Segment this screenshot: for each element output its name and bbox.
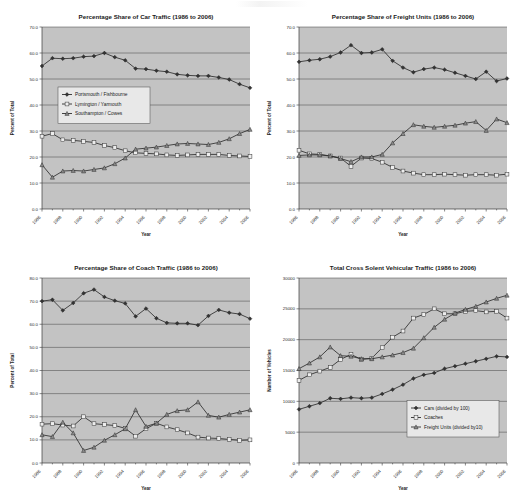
y-axis-title-coach-traffic: Percent of Total [10,353,15,387]
y-tick-label-2: 20.0 [29,155,38,160]
data-point-square-0 [40,422,44,426]
y-tick-label-2: 10000 [283,399,296,404]
data-point-square-20 [505,172,509,176]
y-tick-label-3: 30.0 [29,129,38,134]
y-tick-label-1: 10.0 [286,181,295,186]
chart-panel-freight-units[interactable]: Percentage Share of Freight Units (1986 … [257,0,514,251]
data-point-square-legend [65,102,69,106]
x-tick-label-7: 2000 [177,468,188,479]
y-tick-label-8: 80.0 [29,276,38,281]
data-point-square-1 [308,373,312,377]
data-point-square-19 [238,154,242,158]
data-point-square-4 [82,140,86,144]
data-point-square-13 [175,154,179,158]
y-tick-label-5: 50.0 [29,345,38,350]
x-axis-title-total-vehicular-traffic: Year [398,486,408,491]
y-tick-label-7: 70.0 [286,25,295,30]
data-point-square-6 [103,423,107,427]
data-point-square-16 [207,153,211,157]
data-point-square-10 [401,329,405,333]
x-tick-label-10: 2006 [239,214,250,225]
legend-total-vehicular-traffic[interactable]: Cars (divided by 100)CoachesFreight Unit… [407,401,499,438]
data-point-square-0 [297,148,301,152]
data-point-square-3 [71,424,75,428]
data-point-square-4 [339,358,343,362]
chart-panel-car-traffic[interactable]: Percentage Share of Car Traffic (1986 to… [0,0,257,251]
x-tick-label-8: 2002 [198,214,209,225]
y-tick-label-5: 50.0 [286,77,295,82]
x-tick-label-7: 2000 [177,214,188,225]
chart-panel-coach-traffic[interactable]: Percentage Share of Coach Traffic (1986 … [0,251,257,502]
figure-grid: Percentage Share of Car Traffic (1986 to… [0,0,514,503]
data-point-square-16 [207,436,211,440]
data-point-square-14 [186,153,190,157]
data-point-square-5 [349,164,353,168]
y-tick-label-0: 0.0 [32,207,39,212]
data-point-square-9 [391,166,395,170]
data-point-square-5 [92,141,96,145]
x-tick-label-1: 1988 [309,468,320,479]
data-point-square-12 [422,312,426,316]
data-point-square-15 [453,173,457,177]
legend-label-0: Portsmouth / Fishbourne [75,92,128,97]
x-tick-label-1: 1988 [52,468,63,479]
x-axis-title-car-traffic: Year [141,232,151,237]
legend-car-traffic[interactable]: Portsmouth / FishbourneLymington / Yarmo… [58,87,150,124]
y-tick-label-4: 20000 [283,337,296,342]
data-point-square-20 [505,316,509,320]
x-tick-label-8: 2002 [455,214,466,225]
y-tick-label-0: 0.0 [32,461,39,466]
data-point-square-13 [432,173,436,177]
data-point-square-19 [238,438,242,442]
data-point-square-0 [297,378,301,382]
x-tick-label-0: 1986 [31,468,42,479]
chart-svg-coach-traffic: Percentage Share of Coach Traffic (1986 … [0,251,257,503]
y-tick-label-1: 5000 [285,430,295,435]
data-point-square-14 [443,172,447,176]
x-tick-label-8: 2002 [198,468,209,479]
y-tick-label-6: 60.0 [29,51,38,56]
data-point-square-8 [380,160,384,164]
top-edge-artifact [236,1,356,7]
data-point-square-12 [165,425,169,429]
x-tick-label-7: 2000 [434,468,445,479]
data-point-square-18 [484,310,488,314]
y-tick-label-7: 70.0 [29,299,38,304]
y-axis-title-total-vehicular-traffic: Number of Vehicles [267,349,272,392]
data-point-square-18 [484,173,488,177]
data-point-square-6 [103,144,107,148]
data-point-square-3 [71,138,75,142]
chart-panel-total-vehicular-traffic[interactable]: Total Cross Solent Vehicular Traffic (19… [257,251,514,502]
data-point-square-18 [227,438,231,442]
data-point-square-10 [401,169,405,173]
y-tick-label-3: 30.0 [286,129,295,134]
x-tick-label-10: 2006 [239,468,250,479]
x-tick-label-2: 1990 [330,468,341,479]
y-tick-label-1: 10.0 [29,437,38,442]
data-point-square-13 [175,428,179,432]
x-axis-title-coach-traffic: Year [141,486,151,491]
x-tick-label-2: 1990 [330,214,341,225]
data-point-square-legend [414,416,418,420]
x-tick-label-3: 1992 [351,214,362,225]
data-point-square-12 [422,173,426,177]
y-tick-label-2: 20.0 [286,155,295,160]
data-point-square-13 [432,307,436,311]
data-point-square-2 [318,369,322,373]
legend-label-0: Cars (divided by 100) [424,406,470,411]
data-point-square-1 [51,132,55,136]
data-point-square-12 [165,153,169,157]
chart-title-total-vehicular-traffic: Total Cross Solent Vehicular Traffic (19… [330,264,476,271]
data-point-square-3 [328,366,332,370]
data-point-square-10 [144,151,148,155]
data-point-square-14 [443,312,447,316]
x-tick-label-7: 2000 [434,214,445,225]
data-point-square-15 [196,153,200,157]
x-tick-label-4: 1994 [114,214,125,225]
y-tick-label-5: 50.0 [29,77,38,82]
x-tick-label-3: 1992 [351,468,362,479]
data-point-square-17 [474,309,478,313]
x-tick-label-0: 1986 [288,214,299,225]
y-tick-label-0: 0.0 [289,207,296,212]
x-tick-label-9: 2004 [475,214,486,225]
